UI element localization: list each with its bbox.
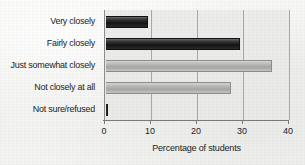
bar-fairly-closely — [106, 38, 240, 50]
category-label-very-closely: Very closely — [5, 16, 95, 26]
gridline-40 — [289, 10, 290, 120]
x-tick-label-40: 40 — [277, 125, 300, 136]
category-label-not-sure-refused: Not sure/refused — [5, 104, 95, 114]
x-tick-label-10: 10 — [139, 125, 162, 136]
bar-not-closely-at-all — [106, 82, 231, 94]
x-axis-title: Percentage of students — [109, 142, 285, 153]
x-tick-label-0: 0 — [93, 125, 116, 136]
x-tick-label-20: 20 — [185, 125, 208, 136]
bar-very-closely — [106, 16, 148, 28]
x-tick-mark-20 — [196, 120, 197, 124]
category-label-fairly-closely: Fairly closely — [5, 38, 95, 48]
bar-just-somewhat-closely — [106, 60, 272, 72]
x-tick-mark-40 — [288, 120, 289, 124]
x-tick-label-30: 30 — [231, 125, 254, 136]
category-label-just-somewhat-closely: Just somewhat closely — [5, 60, 95, 70]
bar-chart: Very closely Fairly closely Just somewha… — [0, 0, 305, 165]
plot-area — [104, 10, 290, 120]
x-tick-mark-30 — [242, 120, 243, 124]
category-axis: Very closely Fairly closely Just somewha… — [0, 10, 99, 120]
x-tick-mark-10 — [150, 120, 151, 124]
category-label-not-closely-at-all: Not closely at all — [5, 82, 95, 92]
x-tick-mark-0 — [104, 120, 105, 124]
bar-not-sure-refused — [106, 104, 108, 116]
